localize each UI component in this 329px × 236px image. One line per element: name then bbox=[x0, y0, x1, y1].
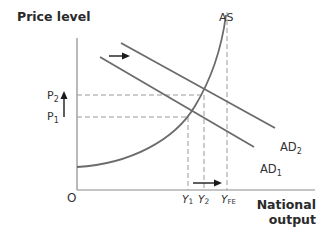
ad-shift-arrow bbox=[109, 53, 130, 60]
origin-label: O bbox=[67, 191, 76, 205]
ad2-label-sub: 2 bbox=[297, 147, 302, 156]
ad1-label-main: AD bbox=[260, 162, 277, 176]
ad1-label: AD1 bbox=[260, 162, 282, 178]
y-axis-label: Price level bbox=[17, 9, 91, 24]
yfe-label-sub: FE bbox=[227, 198, 235, 206]
ad1-label-sub: 1 bbox=[277, 169, 282, 178]
p2-label: P2 bbox=[47, 89, 59, 104]
as-label: AS bbox=[219, 11, 234, 24]
p2-label-sub: 2 bbox=[54, 95, 59, 104]
yfe-label: YFE bbox=[221, 193, 236, 206]
price-rise-arrow bbox=[61, 91, 68, 117]
x-axis-label-line1: National bbox=[257, 197, 316, 212]
y1-label-sub: 1 bbox=[188, 197, 193, 206]
y2-label-sub: 2 bbox=[204, 197, 209, 206]
p1-label-sub: 1 bbox=[54, 116, 59, 125]
p1-label: P1 bbox=[47, 110, 59, 125]
ad1-curve bbox=[100, 57, 254, 147]
y1-label: Y1 bbox=[182, 193, 193, 206]
y2-label: Y2 bbox=[198, 193, 209, 206]
ad2-label-main: AD bbox=[280, 140, 297, 154]
ad-as-diagram: Price level National output O AS AD2 AD1… bbox=[0, 0, 329, 236]
x-axis-label-line2: output bbox=[269, 212, 316, 227]
ad2-label: AD2 bbox=[280, 140, 302, 156]
dashed-guides bbox=[77, 12, 227, 190]
output-rise-arrow bbox=[193, 180, 222, 187]
